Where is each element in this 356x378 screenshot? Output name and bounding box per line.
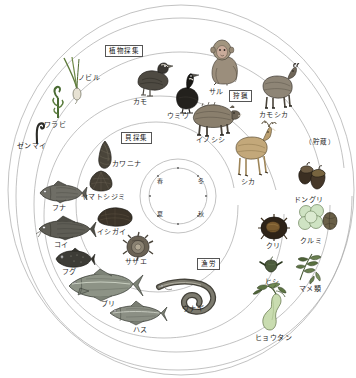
figure-yamatoshijimi: [88, 170, 114, 192]
item-label-kamo: カモ: [133, 98, 148, 105]
season-label-spring: 春: [157, 178, 163, 184]
figure-hishi: [259, 256, 283, 278]
figure-buri: [64, 268, 144, 302]
zone-label-shell-gathering: 貝採集: [121, 132, 152, 144]
zone-label-storage: （貯蔵）: [305, 136, 335, 146]
figure-kurumi: [295, 204, 339, 238]
figure-donguri: [296, 162, 330, 194]
item-label-hasu: ハス: [133, 326, 148, 333]
season-label-winter: 冬: [198, 178, 204, 184]
item-label-kuri: クリ: [266, 242, 281, 249]
season-ring-outer: [140, 159, 216, 233]
item-label-inoshishi: イノシシ: [196, 136, 226, 143]
figure-saru: [203, 38, 245, 86]
figure-zenmai: [30, 118, 48, 144]
figure-ishigai: [95, 205, 135, 229]
season-label-summer: 夏: [157, 211, 163, 217]
item-label-zenmai: ゼンマイ: [17, 142, 47, 149]
zone-label-fishing: 漁労: [197, 258, 220, 270]
diagram-canvas: 春 冬 夏 秋 植物採集 狩猟 貝採集 漁労 （貯蔵） ノビル ワラビ: [0, 0, 356, 378]
item-label-nobiru: ノビル: [78, 74, 100, 81]
figure-sazae: [123, 232, 153, 260]
item-label-funa: フナ: [52, 204, 67, 211]
item-label-shika: シカ: [241, 178, 256, 185]
figure-koi: [35, 215, 97, 241]
item-label-kamoshika: カモシカ: [259, 111, 289, 118]
item-label-mamerui: マメ類: [299, 285, 321, 292]
item-label-hyoutan: ヒョウタン: [255, 334, 292, 341]
figure-warabi: [48, 84, 70, 120]
season-label-autumn: 秋: [198, 211, 204, 217]
figure-shika: [228, 120, 278, 178]
item-label-kurumi: クルミ: [300, 237, 322, 244]
item-label-kawanina: カワニナ: [112, 160, 142, 167]
figure-kuri: [258, 213, 290, 241]
figure-kamoshika: [255, 62, 301, 110]
figure-funa: [36, 180, 88, 204]
figure-mamerui: [292, 250, 328, 286]
item-label-unagi: ウナギ: [182, 305, 204, 312]
item-label-saru: サル: [209, 88, 224, 95]
figure-hyoutan: [252, 282, 300, 334]
zone-label-plant-gathering: 植物採集: [105, 45, 143, 57]
item-label-umiu: ウミウ: [167, 112, 189, 119]
figure-fugu: [52, 247, 96, 269]
item-label-sazae: サザエ: [125, 258, 147, 265]
item-label-donguri: ドングリ: [294, 196, 324, 203]
